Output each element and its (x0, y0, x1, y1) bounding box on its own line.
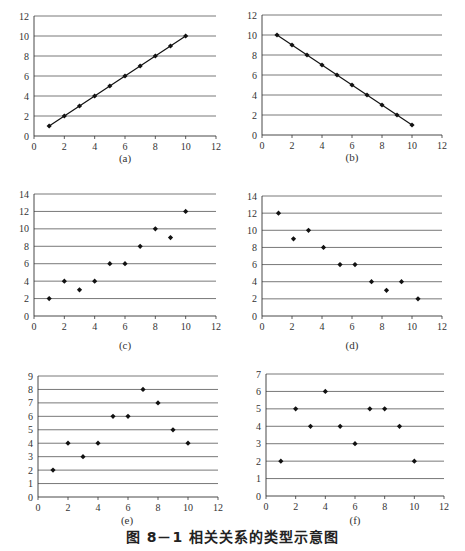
data-point-marker (278, 459, 283, 464)
data-point-marker (308, 424, 313, 429)
data-point-marker (352, 441, 357, 446)
data-point-marker (367, 406, 372, 411)
x-tick-label: 10 (409, 501, 419, 512)
chart-f-svg: 01234567024681012 (0, 0, 465, 551)
panel-label-e: (e) (97, 514, 157, 526)
data-point-marker (293, 406, 298, 411)
y-tick-label: 7 (256, 369, 261, 380)
x-tick-label: 8 (382, 501, 387, 512)
y-tick-label: 4 (256, 421, 261, 432)
x-tick-label: 6 (353, 501, 358, 512)
panel-label-b: (b) (322, 151, 382, 163)
panel-label-c: (c) (95, 339, 155, 351)
y-tick-label: 3 (256, 438, 261, 449)
data-point-marker (338, 424, 343, 429)
panel-label-a: (a) (95, 152, 155, 164)
y-tick-label: 5 (256, 403, 261, 414)
x-tick-label: 12 (439, 501, 449, 512)
x-tick-label: 4 (323, 501, 328, 512)
y-tick-label: 6 (256, 386, 261, 397)
x-tick-label: 2 (293, 501, 298, 512)
x-tick-label: 0 (264, 501, 269, 512)
y-tick-label: 1 (256, 473, 261, 484)
data-point-marker (323, 389, 328, 394)
data-point-marker (397, 424, 402, 429)
y-tick-label: 0 (256, 491, 261, 502)
data-point-marker (382, 406, 387, 411)
y-tick-label: 2 (256, 456, 261, 467)
chart-panel-f: 01234567024681012 (0, 0, 465, 551)
panel-label-d: (d) (322, 339, 382, 351)
figure-caption: 图 8－1 相关关系的类型示意图 (0, 526, 465, 546)
data-point-marker (412, 459, 417, 464)
panel-label-f: (f) (325, 514, 385, 526)
